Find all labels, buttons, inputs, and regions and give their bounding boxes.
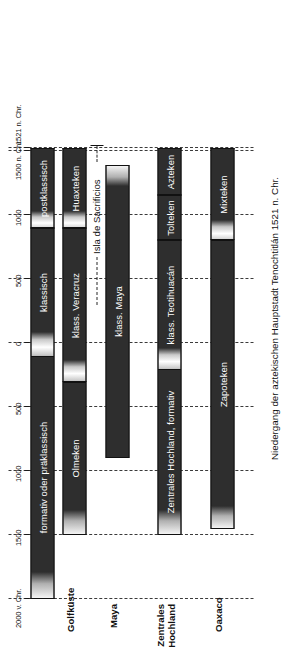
band-azteken[interactable]: Azteken	[157, 148, 181, 195]
golfkueste-separator-1	[62, 381, 86, 382]
hochland-separator-2	[157, 194, 181, 195]
tick-label-1521ad: 1521 n. Chr.	[13, 105, 22, 145]
tick-label-500bc: 500	[13, 403, 22, 415]
band-label-klass-maya: klass. Maya	[106, 166, 128, 457]
band-period-formativ[interactable]: formativ oder präklassisch	[30, 356, 54, 599]
band-label-period-klassisch: klassisch	[31, 229, 53, 356]
tick-label-500ad: 500	[13, 275, 22, 287]
band-hochland-formativ[interactable]: Zentrales Hochland, formativ	[157, 369, 181, 535]
hochland-separator-1	[157, 239, 181, 240]
row-label-zentrales-hochland-line1: Zentrales Hochland	[154, 604, 176, 648]
band-mixteken[interactable]: Mixteken	[210, 148, 234, 240]
tick-mark-500bc	[24, 406, 29, 407]
band-label-hochland-formativ: Zentrales Hochland, formativ	[158, 370, 180, 534]
band-klass-veracruz[interactable]: klass. Veracruz	[62, 228, 86, 382]
period-separator-1	[30, 227, 54, 228]
isla-de-sacrificios-line-right	[96, 146, 97, 162]
band-olmeken[interactable]: Olmeken	[62, 382, 86, 535]
golfkueste-separator-2	[62, 227, 86, 228]
period-separator-top	[30, 598, 54, 599]
band-period-klassisch[interactable]: klassisch	[30, 228, 54, 356]
band-label-tolteken: Tolteken	[158, 196, 180, 240]
tick-label-2000bc: 2000 v. Chr.	[13, 589, 22, 628]
tick-mark-1500bc	[24, 534, 29, 535]
band-klass-teotihuacan[interactable]: klass. Teotihuacán	[157, 240, 181, 369]
tick-mark-500ad	[24, 278, 29, 279]
row-label-golfkueste: Golfküste	[65, 604, 76, 632]
tick-mark-2000bc	[24, 598, 29, 599]
band-label-huaxteken: Huaxteken	[63, 149, 85, 228]
tick-mark-1500ad	[24, 150, 29, 151]
band-tolteken[interactable]: Tolteken	[157, 195, 181, 240]
tick-label-1500ad: 1500 n. Chr.	[13, 140, 22, 180]
band-label-klass-veracruz: klass. Veracruz	[63, 229, 85, 382]
band-zapoteken[interactable]: Zapoteken	[210, 240, 234, 529]
isla-de-sacrificios-marker	[90, 145, 103, 146]
isla-de-sacrificios-line-left	[96, 257, 97, 305]
band-period-postklassisch[interactable]: postklassisch	[30, 148, 54, 228]
tick-label-1500bc: 1500	[13, 530, 22, 547]
band-label-period-formativ: formativ oder präklassisch	[31, 357, 53, 598]
figure-caption: Niedergang der aztekischen Hauptstadt Te…	[268, 177, 279, 460]
tick-label-1000ad: 1000	[13, 210, 22, 227]
tick-mark-1521ad	[24, 147, 29, 148]
tick-label-0: 0	[13, 342, 22, 346]
band-label-period-postklassisch: postklassisch	[31, 149, 53, 228]
band-label-olmeken: Olmeken	[63, 383, 85, 534]
tick-label-1000bc: 1000	[13, 466, 22, 483]
row-label-oaxaco: Oaxaco	[213, 604, 224, 632]
band-huaxteken[interactable]: Huaxteken	[62, 148, 86, 228]
band-label-klass-teotihuacan: klass. Teotihuacán	[158, 241, 180, 369]
tick-mark-1000ad	[24, 214, 29, 215]
isla-de-sacrificios-label: Isla de Sacrificios	[90, 179, 101, 254]
band-label-zapoteken: Zapoteken	[211, 241, 233, 528]
row-label-zentrales-hochland: Zentrales Hochland	[155, 604, 176, 651]
band-label-mixteken: Mixteken	[211, 149, 233, 240]
band-label-azteken: Azteken	[158, 149, 180, 195]
row-label-maya: Maya	[108, 604, 119, 632]
oaxaco-separator-1	[210, 239, 234, 240]
tick-mark-1000bc	[24, 470, 29, 471]
band-klass-maya[interactable]: klass. Maya	[105, 165, 129, 458]
tick-mark-0	[24, 342, 29, 343]
